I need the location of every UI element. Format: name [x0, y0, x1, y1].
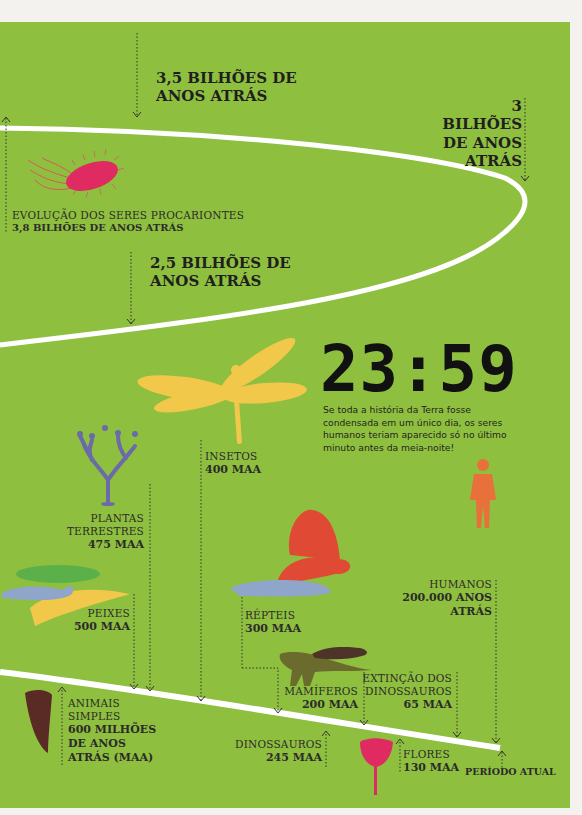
label-present: PERÍODO ATUAL — [465, 766, 556, 778]
label-land-plants: PLANTAS TERRESTRES 475 MAA — [40, 512, 144, 552]
sail-reptile-icon — [278, 510, 350, 586]
milestone-line: 2,5 BILHÕES DE — [150, 254, 291, 272]
label-title: PEIXES — [50, 607, 130, 620]
label-age: ATRÁS (MAA) — [68, 751, 156, 765]
clock-description: Se toda a história da Terra fosse conden… — [323, 404, 523, 455]
label-age: 3,8 BILHÕES DE ANOS ATRÁS — [12, 222, 244, 235]
label-title: DINOSSAUROS — [228, 738, 322, 751]
label-title: FLORES — [403, 748, 459, 761]
label-insects: INSETOS 400 MAA — [205, 450, 261, 477]
label-flowers: FLORES 130 MAA — [403, 748, 459, 775]
milestone-line: ANOS ATRÁS — [150, 272, 261, 290]
label-title: MAMÍFEROS — [280, 685, 358, 698]
label-age: 130 MAA — [403, 761, 459, 775]
milestone-2-5-billion: 2,5 BILHÕES DE ANOS ATRÁS — [150, 254, 291, 291]
label-age: 600 MILHÕES — [68, 723, 156, 737]
land-plant-icon — [80, 436, 135, 503]
label-title: ANIMAIS — [68, 697, 156, 710]
milestone-line: DE ANOS — [443, 134, 522, 152]
label-age: 200.000 ANOS — [400, 591, 492, 605]
label-age: 400 MAA — [205, 463, 261, 477]
label-age: 475 MAA — [40, 538, 144, 552]
label-dinosaurs: DINOSSAUROS 245 MAA — [228, 738, 322, 765]
flower-icon — [360, 738, 393, 795]
label-title: DINOSSAUROS — [358, 685, 452, 698]
clock-heading: 23:59 — [320, 337, 518, 401]
milestone-line: ATRÁS — [465, 152, 522, 170]
label-age: 65 MAA — [358, 698, 452, 712]
lizard-icon — [230, 580, 330, 597]
milestone-line: 3,5 BILHÕES DE — [156, 69, 297, 87]
milestone-line: 3 BILHÕES — [442, 97, 522, 133]
label-age: 245 MAA — [228, 751, 322, 765]
label-title: SIMPLES — [68, 710, 156, 723]
dragonfly-icon — [136, 331, 308, 444]
label-title: INSETOS — [205, 450, 261, 463]
label-age: 300 MAA — [245, 622, 301, 636]
label-title: EVOLUÇÃO DOS SERES PROCARIONTES — [12, 209, 244, 222]
label-age: ATRÁS — [400, 605, 492, 619]
label-title: PLANTAS — [40, 512, 144, 525]
label-title: PERÍODO ATUAL — [465, 766, 556, 778]
label-humans: HUMANOS 200.000 ANOS ATRÁS — [400, 578, 492, 619]
label-title: RÉPTEIS — [245, 609, 301, 622]
label-reptiles: RÉPTEIS 300 MAA — [245, 609, 301, 636]
label-age: DE ANOS — [68, 737, 156, 751]
bacterium-icon — [28, 149, 124, 198]
label-title: TERRESTRES — [40, 525, 144, 538]
label-age: 500 MAA — [50, 620, 130, 634]
label-title: EXTINÇÃO DOS — [358, 672, 452, 685]
label-mammals: MAMÍFEROS 200 MAA — [280, 685, 358, 712]
milestone-line: ANOS ATRÁS — [156, 87, 267, 105]
simple-animal-icon — [25, 690, 52, 753]
label-title: HUMANOS — [400, 578, 492, 591]
label-age: 200 MAA — [280, 698, 358, 712]
label-simple-animals: ANIMAIS SIMPLES 600 MILHÕES DE ANOS ATRÁ… — [68, 697, 156, 765]
label-prokaryotes: EVOLUÇÃO DOS SERES PROCARIONTES 3,8 BILH… — [12, 209, 244, 235]
label-fish: PEIXES 500 MAA — [50, 607, 130, 634]
label-dinosaur-extinction: EXTINÇÃO DOS DINOSSAUROS 65 MAA — [358, 672, 452, 712]
milestone-3-billion: 3 BILHÕES DE ANOS ATRÁS — [440, 97, 522, 170]
mammal-icon — [312, 647, 367, 659]
milestone-3-5-billion: 3,5 BILHÕES DE ANOS ATRÁS — [156, 69, 297, 106]
human-icon — [470, 459, 496, 528]
